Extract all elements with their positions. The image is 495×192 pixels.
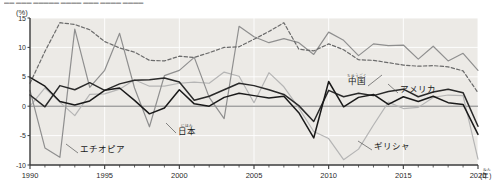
annotation-label-ethiopia: エチオピア — [80, 144, 125, 154]
y-axis-unit-label: (%) — [16, 8, 28, 17]
annotation-label-america: アメリカ — [400, 84, 436, 94]
y-tick-label: -5 — [20, 132, 26, 139]
x-tick-label: 2000 — [171, 171, 188, 180]
x-tick-label: 1990 — [22, 171, 39, 180]
x-tick-label: 2010 — [320, 171, 337, 180]
x-axis-unit-ruby: ねん — [483, 167, 491, 172]
x-tick-label: 2015 — [395, 171, 412, 180]
y-tick-label: 10 — [18, 44, 26, 51]
y-tick-label: -10 — [16, 162, 26, 169]
line-chart-svg: 151050-5-10(%)19901995200020052010201520… — [0, 5, 495, 192]
x-tick-label: 1995 — [96, 171, 113, 180]
chart-plot-area: 151050-5-10(%)19901995200020052010201520… — [0, 5, 495, 192]
x-axis-unit-label: (年) — [480, 171, 491, 180]
annotation-label-china: 中国 — [348, 76, 366, 86]
x-tick-label: 2005 — [246, 171, 263, 180]
annotation-label-japan: 日本 — [178, 126, 196, 136]
chart-figure: ▬▬ ▬▬▬ ▬▬▬▬▬ ▬▬▬▬ ▬▬▬ ▬▬▬▬ ▬▬▬▬ 151050-5… — [0, 0, 495, 192]
y-tick-label: 5 — [22, 73, 26, 80]
annotation-label-greece: ギリシャ — [374, 141, 410, 151]
y-tick-label: 0 — [22, 103, 26, 110]
